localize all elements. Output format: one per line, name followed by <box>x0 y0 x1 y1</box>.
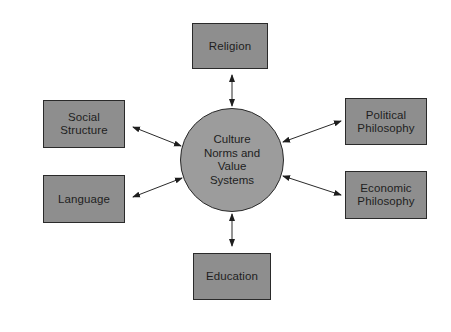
node-label: Economic Philosophy <box>357 182 414 208</box>
center-node-label: Culture Norms and Value Systems <box>204 133 260 187</box>
node-label: Political Philosophy <box>357 109 414 135</box>
node-label: Education <box>206 270 258 283</box>
arrow-social-structure-to-center <box>133 127 181 146</box>
node-political-philosophy: Political Philosophy <box>345 98 427 145</box>
node-religion: Religion <box>192 23 268 69</box>
node-education: Education <box>193 253 271 300</box>
center-node-culture: Culture Norms and Value Systems <box>180 108 284 212</box>
arrow-political-philosophy-to-center <box>283 121 341 142</box>
culture-diagram: Culture Norms and Value Systems Religion… <box>0 0 451 332</box>
node-language: Language <box>43 175 125 223</box>
node-social-structure: Social Structure <box>43 100 125 148</box>
node-label: Religion <box>209 40 251 53</box>
node-label: Social Structure <box>60 111 108 137</box>
node-economic-philosophy: Economic Philosophy <box>345 171 427 219</box>
arrow-economic-philosophy-to-center <box>283 176 341 195</box>
node-label: Language <box>58 193 110 206</box>
arrow-language-to-center <box>133 178 182 197</box>
